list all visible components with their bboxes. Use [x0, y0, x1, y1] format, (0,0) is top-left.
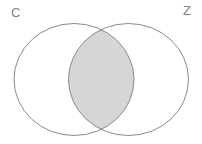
set-label-c: C [11, 6, 20, 19]
venn-diagram-canvas [0, 0, 202, 144]
set-label-z: Z [183, 4, 191, 17]
venn-diagram: C Z [0, 0, 202, 144]
